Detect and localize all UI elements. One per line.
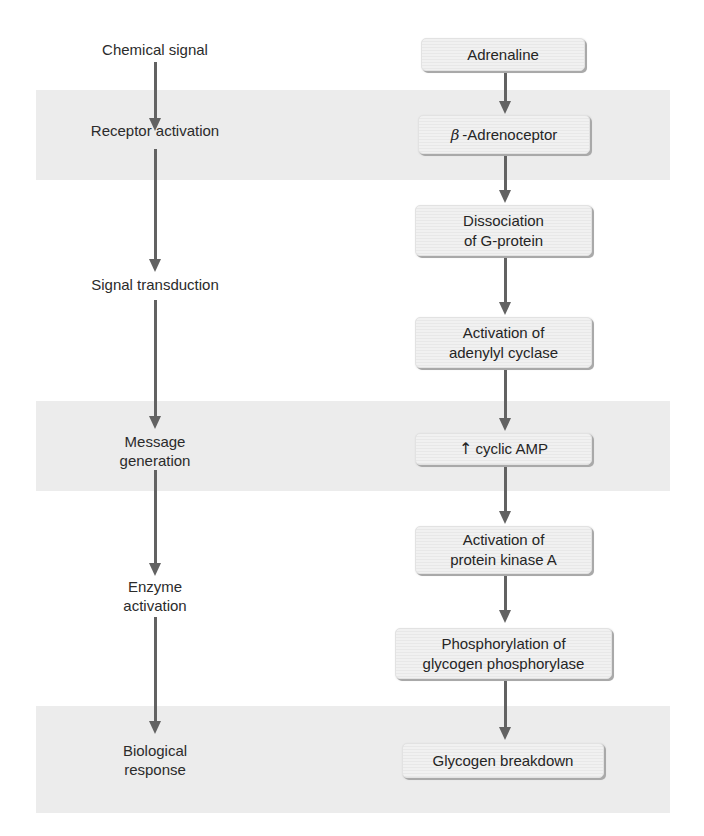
stage-chemical-signal: Chemical signal <box>55 40 255 59</box>
step-label-line2: glycogen phosphorylase <box>423 654 585 674</box>
step-dissociation-g-protein: Dissociation of G-protein <box>415 205 592 256</box>
stage-label-line2: activation <box>55 596 255 615</box>
step-label: Adrenaline <box>467 45 539 65</box>
stage-receptor-activation: Receptor activation <box>55 121 255 140</box>
stage-message-generation: Message generation <box>55 432 255 470</box>
stage-label-line1: Biological <box>55 741 255 760</box>
step-adrenaline: Adrenaline <box>421 38 585 71</box>
stage-label: Signal transduction <box>91 276 219 293</box>
step-label-line2: adenylyl cyclase <box>449 343 558 363</box>
step-activation-protein-kinase-a: Activation of protein kinase A <box>415 526 592 574</box>
stage-label-line2: response <box>55 760 255 779</box>
step-label: -Adrenoceptor <box>462 125 557 145</box>
step-label: Glycogen breakdown <box>433 751 574 771</box>
step-glycogen-breakdown: Glycogen breakdown <box>402 743 604 778</box>
beta-symbol: β <box>451 125 460 145</box>
stage-label-line1: Message <box>55 432 255 451</box>
stage-label-line2: generation <box>55 451 255 470</box>
stage-biological-response: Biological response <box>55 741 255 779</box>
step-label-line1: Phosphorylation of <box>441 634 565 654</box>
step-label: cyclic AMP <box>475 439 548 459</box>
step-label-line2: protein kinase A <box>450 550 557 570</box>
step-label-line1: Dissociation <box>463 211 544 231</box>
step-label-line2: of G-protein <box>464 231 543 251</box>
step-label-line1: Activation of <box>463 530 545 550</box>
step-phosphorylation-glycogen-phosphorylase: Phosphorylation of glycogen phosphorylas… <box>395 628 612 679</box>
step-label-line1: Activation of <box>463 323 545 343</box>
step-cyclic-amp: ↑cyclic AMP <box>415 433 592 465</box>
step-activation-adenylyl-cyclase: Activation of adenylyl cyclase <box>415 317 592 368</box>
step-beta-adrenoceptor: β-Adrenoceptor <box>418 115 590 154</box>
stage-signal-transduction: Signal transduction <box>55 275 255 294</box>
stage-label: Chemical signal <box>102 41 208 58</box>
increase-arrow-icon: ↑ <box>459 439 472 459</box>
stage-label-line1: Enzyme <box>55 577 255 596</box>
stage-label: Receptor activation <box>91 122 219 139</box>
stage-enzyme-activation: Enzyme activation <box>55 577 255 615</box>
